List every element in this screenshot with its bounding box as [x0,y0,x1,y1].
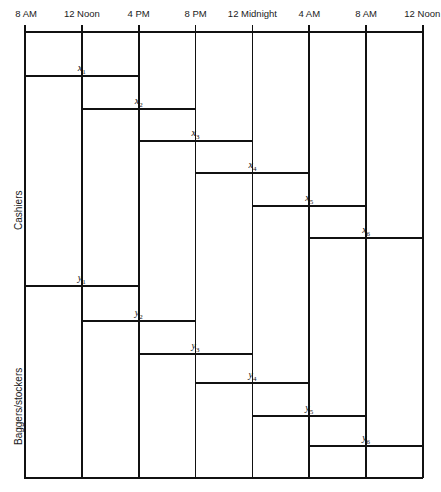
shift-bar-label: x6 [362,224,370,238]
x-axis-tick-label: 4 AM [298,8,320,19]
x-axis-tick-label: 8 PM [184,8,206,19]
x-axis-tick-label: 12 Noon [64,8,100,19]
gridline [138,25,140,478]
gridline [195,25,197,478]
x-axis-tick-label: 12 Midnight [228,8,277,19]
shift-bar-label: y6 [362,432,370,446]
shift-bar-label: y5 [305,402,313,416]
shift-bar-label: y1 [78,272,86,286]
gridline [81,25,83,478]
shift-bar-label: y3 [192,340,200,354]
shift-bar-label: x3 [192,127,200,141]
gridline [252,25,254,478]
gridline [422,25,424,478]
row-label-cashiers: Cashiers [13,191,24,230]
shift-schedule-chart: 8 AM12 Noon4 PM8 PM12 Midnight4 AM8 AM12… [0,0,441,492]
shift-bar-label: x4 [248,159,256,173]
x-axis-tick-label: 8 AM [15,8,37,19]
shift-bar-label: x5 [305,192,313,206]
shift-bar-label: x2 [135,95,143,109]
shift-bar-label: x1 [78,62,86,76]
axis-bottom-line [25,477,423,479]
x-axis-tick-label: 12 Noon [404,8,440,19]
gridline [365,25,367,478]
x-axis-tick-label: 4 PM [128,8,150,19]
axis-left-line [24,31,26,479]
shift-bar-label: y4 [248,369,256,383]
row-label-baggers-stockers: Baggers/stockers [13,368,24,445]
x-axis-tick-label: 8 AM [355,8,377,19]
axis-top-line [25,31,423,33]
shift-bar-label: y2 [135,307,143,321]
